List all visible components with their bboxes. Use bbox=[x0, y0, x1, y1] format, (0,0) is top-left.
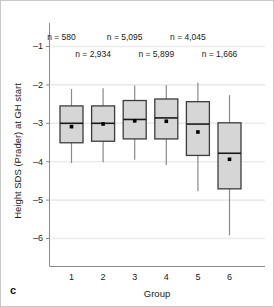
box-plot-item bbox=[186, 82, 209, 191]
mean-marker bbox=[133, 119, 137, 123]
box-plot-item bbox=[60, 89, 83, 163]
n-annotation: n = 1,666 bbox=[202, 49, 238, 59]
n-annotation: n = 580 bbox=[47, 32, 76, 42]
y-tick-label: –4 bbox=[33, 157, 43, 167]
mean-marker bbox=[101, 122, 105, 126]
x-tick-label: 3 bbox=[132, 272, 137, 282]
mean-marker bbox=[70, 125, 74, 129]
mean-marker bbox=[228, 157, 232, 161]
box-plot-item bbox=[123, 86, 146, 160]
n-annotation: n = 4,045 bbox=[170, 32, 206, 42]
y-axis-ticks: –1–2–3–4–5–6 bbox=[33, 41, 50, 243]
x-tick-label: 6 bbox=[227, 272, 232, 282]
n-annotations: n = 580n = 5,095n = 4,045n = 2,934n = 5,… bbox=[47, 32, 237, 59]
y-tick-label: –1 bbox=[33, 41, 43, 51]
box-rect bbox=[218, 123, 241, 189]
mean-marker bbox=[196, 130, 200, 134]
n-annotation: n = 5,095 bbox=[107, 32, 143, 42]
y-tick-label: –6 bbox=[33, 233, 43, 243]
boxplot-chart: –1–2–3–4–5–6 123456 n = 580n = 5,095n = … bbox=[1, 1, 274, 307]
x-tick-label: 1 bbox=[69, 272, 74, 282]
n-annotation: n = 5,899 bbox=[138, 49, 174, 59]
figure-panel: –1–2–3–4–5–6 123456 n = 580n = 5,095n = … bbox=[0, 0, 274, 307]
y-tick-label: –5 bbox=[33, 195, 43, 205]
x-axis-ticks: 123456 bbox=[69, 272, 232, 282]
box-plot-series bbox=[60, 82, 241, 235]
x-tick-label: 5 bbox=[195, 272, 200, 282]
x-tick-label: 2 bbox=[101, 272, 106, 282]
box-rect bbox=[186, 102, 209, 156]
mean-marker bbox=[165, 119, 169, 123]
y-axis-label: Height SDS (Prader) at GH start bbox=[12, 83, 23, 219]
box-plot-item bbox=[92, 88, 115, 162]
box-plot-item bbox=[155, 85, 178, 165]
y-tick-label: –3 bbox=[33, 118, 43, 128]
x-tick-label: 4 bbox=[164, 272, 169, 282]
n-annotation: n = 2,934 bbox=[75, 49, 111, 59]
panel-label: c bbox=[10, 284, 16, 296]
box-rect bbox=[155, 99, 178, 139]
x-axis-label: Group bbox=[144, 288, 170, 299]
box-rect bbox=[60, 106, 83, 143]
y-tick-label: –2 bbox=[33, 80, 43, 90]
box-plot-item bbox=[218, 95, 241, 235]
